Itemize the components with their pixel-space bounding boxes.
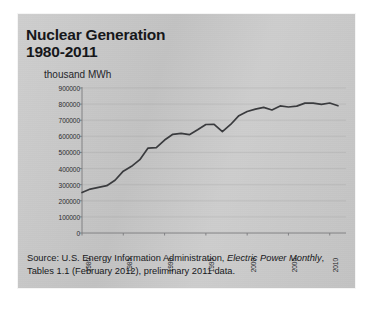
- y-axis-unit-label: thousand MWh: [44, 69, 111, 80]
- y-axis-tick-labels: 9000008000007000006000005000004000003000…: [22, 84, 80, 237]
- plot-svg: [82, 88, 346, 233]
- source-prefix-text: Source: U.S. Energy Information Administ…: [27, 253, 227, 263]
- source-note: Source: U.S. Energy Information Administ…: [27, 252, 343, 277]
- axes: [82, 87, 346, 233]
- y-tick-label: 800000: [59, 101, 80, 108]
- chart-title-line-2: 1980-2011: [26, 43, 165, 60]
- y-tick-label: 200000: [59, 197, 80, 204]
- y-tick-label: 300000: [59, 181, 80, 188]
- y-tick-label: 700000: [59, 117, 80, 124]
- y-tick-label: 600000: [59, 133, 80, 140]
- plot-area: [82, 88, 346, 233]
- y-tick-label: 500000: [59, 149, 80, 156]
- gridlines: [82, 88, 346, 217]
- y-tick-label: 100000: [59, 213, 80, 220]
- y-tick-label: 900000: [59, 85, 80, 92]
- nuclear-generation-chart-figure: Nuclear Generation 1980-2011 thousand MW…: [0, 0, 369, 309]
- nuclear-generation-line: [82, 103, 338, 193]
- source-publication-title: Electric Power Monthly: [227, 253, 322, 263]
- chart-title-line-1: Nuclear Generation: [26, 26, 165, 43]
- y-tick-label: 400000: [59, 165, 80, 172]
- chart-title-block: Nuclear Generation 1980-2011: [26, 26, 165, 60]
